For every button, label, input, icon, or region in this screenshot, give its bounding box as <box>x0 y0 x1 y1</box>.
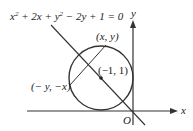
origin-label: O <box>123 115 131 126</box>
x-axis-label: x <box>181 105 186 116</box>
center-label: (−1, 1) <box>98 65 128 76</box>
center-point <box>99 76 103 80</box>
y-axis-label: y <box>131 8 136 19</box>
point-xy-label: (x, y) <box>96 31 119 42</box>
reflected-point-label: (− y, −x) <box>31 81 71 92</box>
x-axis-arrow-icon <box>170 108 178 114</box>
circle-equation: x2 + 2x + y2 − 2y + 1 = 0 <box>10 11 123 22</box>
y-axis-arrow-icon <box>130 20 136 28</box>
diagram-canvas: x2 + 2x + y2 − 2y + 1 = 0 y (x, y) (−1, … <box>0 0 193 131</box>
